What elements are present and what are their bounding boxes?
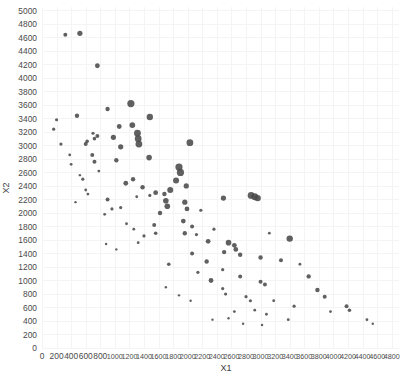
x-tick-label: 400: [64, 351, 78, 361]
scatter-point: [152, 223, 156, 227]
scatter-point: [366, 318, 369, 321]
scatter-point: [106, 197, 110, 201]
scatter-point: [190, 224, 194, 228]
scatter-point: [299, 263, 302, 266]
scatter-point: [221, 268, 224, 271]
scatter-point: [253, 309, 256, 312]
scatter-point: [131, 177, 135, 181]
x-tick-label: 600: [79, 351, 93, 361]
y-tick-label: 1200: [18, 262, 37, 272]
scatter-point: [103, 213, 106, 216]
scatter-point: [345, 304, 349, 308]
scatter-point: [272, 299, 275, 302]
scatter-point: [249, 299, 252, 302]
scatter-point: [261, 324, 263, 326]
scatter-point: [187, 139, 194, 146]
y-tick-label: 2400: [18, 181, 37, 191]
y-tick-label: 4800: [18, 19, 37, 29]
scatter-point: [123, 181, 128, 186]
scatter-point: [196, 271, 199, 274]
scatter-point: [154, 231, 158, 235]
scatter-point: [167, 187, 173, 193]
scatter-point: [105, 107, 109, 111]
scatter-point: [184, 183, 189, 188]
scatter-point: [117, 124, 122, 129]
y-tick-label: 3400: [18, 114, 37, 124]
scatter-point: [226, 240, 232, 246]
scatter-point: [242, 322, 244, 324]
scatter-point: [323, 295, 327, 299]
scatter-point: [211, 318, 213, 320]
scatter-point: [111, 135, 116, 140]
scatter-point: [162, 192, 166, 196]
scatter-point: [70, 163, 73, 166]
scatter-point: [63, 33, 67, 37]
scatter-point: [183, 231, 187, 235]
y-tick-label: 3600: [18, 100, 37, 110]
scatter-point: [258, 255, 262, 259]
scatter-point: [137, 241, 140, 244]
scatter-point: [146, 155, 152, 161]
scatter-point: [263, 283, 267, 287]
scatter-point: [348, 308, 352, 312]
y-tick-label: 4600: [18, 33, 37, 43]
scatter-point: [259, 280, 263, 284]
y-tick-label: 1800: [18, 222, 37, 232]
y-tick-label: 2800: [18, 154, 37, 164]
scatter-point: [292, 305, 295, 308]
scatter-point: [204, 259, 208, 263]
scatter-point: [114, 158, 118, 162]
scatter-point: [115, 248, 117, 250]
scatter-point: [91, 132, 94, 135]
scatter-point: [227, 317, 229, 319]
scatter-point: [118, 144, 123, 149]
y-tick-label: 600: [23, 303, 37, 313]
y-tick-label: 2600: [18, 168, 37, 178]
scatter-point: [195, 233, 198, 236]
scatter-point: [189, 300, 191, 302]
scatter-point: [127, 100, 134, 107]
scatter-point: [182, 200, 187, 205]
scatter-point: [142, 234, 145, 237]
x-tick-label: 4800: [384, 352, 400, 361]
y-tick-label: 0: [32, 343, 37, 353]
scatter-point: [244, 295, 247, 298]
scatter-point: [84, 189, 87, 192]
scatter-point: [105, 243, 107, 245]
scatter-point: [238, 274, 242, 278]
y-tick-label: 800: [23, 289, 37, 299]
scatter-point: [68, 153, 71, 156]
scatter-point: [221, 195, 226, 200]
scatter-point: [315, 288, 319, 292]
scatter-point: [221, 287, 224, 290]
scatter-point: [119, 206, 122, 209]
scatter-point: [92, 160, 96, 164]
scatter-point: [140, 185, 144, 189]
scatter-point: [177, 169, 184, 176]
scatter-point: [167, 262, 171, 266]
scatter-point: [233, 310, 236, 313]
scatter-point: [212, 228, 215, 231]
scatter-plot-canvas[interactable]: 0200400600800100012001400160018002000220…: [0, 0, 410, 376]
scatter-point: [90, 153, 94, 157]
scatter-point: [153, 190, 158, 195]
scatter-point: [209, 278, 214, 283]
x-tick-label: 800: [93, 351, 107, 361]
scatter-point: [87, 193, 90, 196]
y-tick-label: 3800: [18, 87, 37, 97]
scatter-point: [254, 195, 260, 201]
y-tick-label: 4000: [18, 73, 37, 83]
scatter-point: [287, 235, 293, 241]
scatter-point: [181, 219, 186, 224]
y-tick-label: 4400: [18, 46, 37, 56]
scatter-point: [81, 178, 84, 181]
x-axis-tick-labels: 0200400600800100012001400160018002000220…: [40, 351, 400, 361]
scatter-point: [130, 122, 136, 128]
scatter-point: [268, 232, 271, 235]
y-tick-label: 2200: [18, 195, 37, 205]
scatter-point: [79, 174, 81, 176]
scatter-point: [372, 322, 374, 324]
scatter-point: [173, 178, 179, 184]
y-axis-title: X2: [1, 182, 11, 193]
y-tick-label: 400: [23, 316, 37, 326]
